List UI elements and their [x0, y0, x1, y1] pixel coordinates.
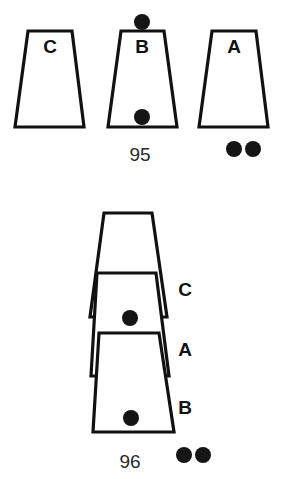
dot-on-b-1 [134, 14, 150, 30]
figure-page: CBA95CAB96 [0, 0, 281, 479]
shape-label-b: B [178, 397, 192, 418]
stimulus-figure: CBA95CAB96 [0, 0, 281, 479]
shape-label-c: C [43, 36, 57, 57]
loose-dot-2 [195, 447, 211, 463]
panel-number-96: 96 [119, 451, 140, 472]
shape-label-a: A [227, 36, 241, 57]
shape-label-b: B [135, 36, 149, 57]
panel-number-95: 95 [129, 144, 150, 165]
dot-on-b-1 [123, 410, 139, 426]
loose-dot-1 [176, 447, 192, 463]
loose-dot-2 [245, 141, 261, 157]
shape-label-a: A [178, 339, 192, 360]
dot-on-a-1 [122, 310, 138, 326]
loose-dot-1 [226, 141, 242, 157]
dot-on-b-2 [134, 109, 150, 125]
shape-label-c: C [178, 279, 192, 300]
